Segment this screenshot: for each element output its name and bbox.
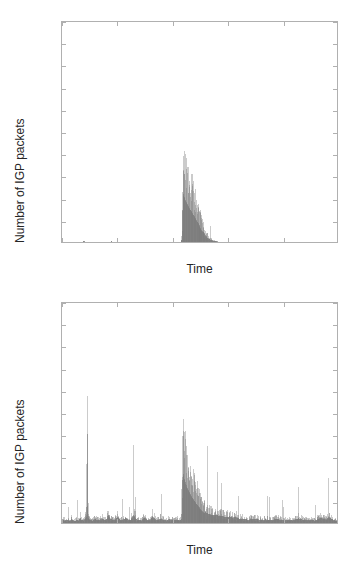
x-tick-mark [228, 238, 229, 242]
y-tick-mark-right [333, 66, 337, 67]
y-tick-mark [62, 66, 66, 67]
x-tick-mark-top [173, 22, 174, 26]
y-tick-mark [62, 111, 66, 112]
y-tick-mark-right [333, 436, 337, 437]
plot-axes-bottom: 020040060080010001200140016001800200001/… [61, 302, 338, 524]
x-tick-mark [173, 519, 174, 523]
y-tick-mark-right [333, 44, 337, 45]
y-tick-mark-right [333, 347, 337, 348]
y-tick-mark [62, 481, 66, 482]
x-tick-mark-top [62, 22, 63, 26]
y-tick-mark [62, 89, 66, 90]
x-axis-title-bottom: Time [61, 544, 338, 556]
x-tick-mark-top [117, 303, 118, 307]
y-tick-mark-right [333, 155, 337, 156]
y-tick-mark-right [333, 481, 337, 482]
x-tick-mark-top [284, 303, 285, 307]
y-tick-mark [62, 436, 66, 437]
x-tick-mark-top [62, 303, 63, 307]
series-igp-packets-filtered- [83, 151, 221, 242]
y-tick-mark-right [333, 414, 337, 415]
chart-panel-top: Number of IGP packets 020040060080010001… [0, 0, 359, 281]
x-tick-mark [228, 519, 229, 523]
series-canvas [62, 22, 337, 242]
y-tick-mark-right [333, 177, 337, 178]
y-tick-mark-right [333, 370, 337, 371]
y-tick-mark-right [333, 458, 337, 459]
x-tick-mark-top [228, 303, 229, 307]
y-tick-mark-right [333, 89, 337, 90]
y-tick-mark [62, 414, 66, 415]
x-tick-mark-top [284, 22, 285, 26]
y-axis-title-top: Number of IGP packets [14, 119, 26, 244]
y-tick-mark-right [333, 392, 337, 393]
y-tick-mark [62, 133, 66, 134]
y-tick-mark [62, 503, 66, 504]
x-axis-title-top: Time [61, 263, 338, 275]
x-tick-mark [173, 238, 174, 242]
y-tick-mark-right [333, 133, 337, 134]
x-tick-mark [284, 519, 285, 523]
x-tick-mark-top [173, 303, 174, 307]
y-tick-mark [62, 155, 66, 156]
x-tick-mark-top [117, 22, 118, 26]
y-axis-title-bottom: Number of IGP packets [14, 400, 26, 525]
x-tick-mark [284, 238, 285, 242]
series-core [62, 434, 337, 523]
y-tick-mark [62, 370, 66, 371]
y-tick-mark-right [333, 325, 337, 326]
y-tick-mark [62, 458, 66, 459]
y-tick-mark-right [333, 503, 337, 504]
series-igp-packets-unfiltered- [62, 396, 337, 523]
x-tick-mark [62, 238, 63, 242]
plot-area-top [62, 22, 337, 242]
plot-axes-top: 020040060080010001200140016001800200001/… [61, 21, 338, 243]
y-tick-mark-right [333, 222, 337, 223]
x-tick-mark [62, 519, 63, 523]
plot-area-bottom [62, 303, 337, 523]
figure-igp-packets: Number of IGP packets 020040060080010001… [0, 0, 359, 562]
y-tick-mark-right [333, 22, 337, 23]
series-impulses [62, 396, 337, 523]
y-tick-mark-right [333, 303, 337, 304]
chart-panel-bottom: Number of IGP packets 020040060080010001… [0, 281, 359, 562]
y-tick-mark-right [333, 111, 337, 112]
x-tick-mark [117, 238, 118, 242]
y-tick-mark [62, 347, 66, 348]
y-tick-mark [62, 177, 66, 178]
y-tick-mark-right [333, 200, 337, 201]
y-tick-mark [62, 200, 66, 201]
x-tick-mark-top [228, 22, 229, 26]
y-tick-mark [62, 392, 66, 393]
y-tick-mark [62, 222, 66, 223]
y-tick-mark [62, 44, 66, 45]
x-tick-mark [117, 519, 118, 523]
series-canvas [62, 303, 337, 523]
y-tick-mark [62, 325, 66, 326]
